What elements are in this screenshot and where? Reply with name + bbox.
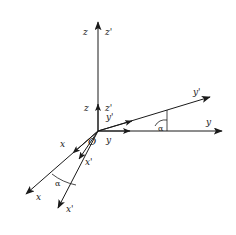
y-prime-axis-near-label: y' [106,113,114,122]
coordinate-axes-figure: z z' z z' O y y' y y' α x x' x x' α [0,0,236,235]
z-axis-top-label: z [83,28,88,37]
x-axis-far-label: x [36,193,41,202]
y-prime-axis-far-label: y' [193,88,201,97]
x-prime-axis-near-label: x' [85,158,93,167]
z-prime-axis-top-label: z' [105,28,112,37]
y-prime-axis-inner-arrow [98,121,132,131]
alpha-right-label: α [158,125,163,133]
origin-label: O [88,137,96,147]
y-axis-near-label: y [106,136,111,145]
x-axis-near-label: x [60,140,65,149]
alpha-left-label: α [55,180,60,188]
x-prime-axis-far-label: x' [66,205,74,214]
z-axis-near-label: z [84,104,89,113]
y-axis-far-label: y [206,118,211,127]
